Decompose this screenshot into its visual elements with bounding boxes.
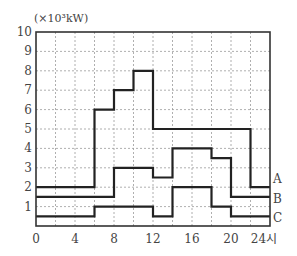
step-chart: 12345678910 04812162024시 ABC (×10³kW) <box>0 0 297 256</box>
y-tick-label: 10 <box>17 25 32 39</box>
y-tick-label: 9 <box>24 44 32 58</box>
x-tick-label: 16 <box>184 232 199 246</box>
x-tick-label: 8 <box>110 232 118 246</box>
y-tick-label: 5 <box>24 122 32 136</box>
y-tick-label: 8 <box>24 64 32 78</box>
series-label-b: B <box>273 192 282 206</box>
series-label-c: C <box>273 211 282 225</box>
y-tick-label: 1 <box>24 200 32 214</box>
x-axis-ticks: 04812162024시 <box>32 232 277 246</box>
y-tick-label: 7 <box>24 83 32 97</box>
series-label-a: A <box>272 172 282 186</box>
x-tick-label: 20 <box>223 232 238 246</box>
x-tick-label: 0 <box>32 232 40 246</box>
y-tick-label: 4 <box>24 141 32 155</box>
y-tick-label: 3 <box>24 161 32 175</box>
y-axis-unit-label: (×10³kW) <box>34 12 88 25</box>
y-axis-ticks: 12345678910 <box>17 25 33 214</box>
y-tick-label: 2 <box>24 180 32 194</box>
x-tick-label: 4 <box>71 232 79 246</box>
y-tick-label: 6 <box>24 103 32 117</box>
series-labels: ABC <box>272 172 282 225</box>
series-lines <box>36 71 270 217</box>
x-tick-label: 12 <box>145 232 160 246</box>
x-tick-label: 24시 <box>251 232 277 246</box>
